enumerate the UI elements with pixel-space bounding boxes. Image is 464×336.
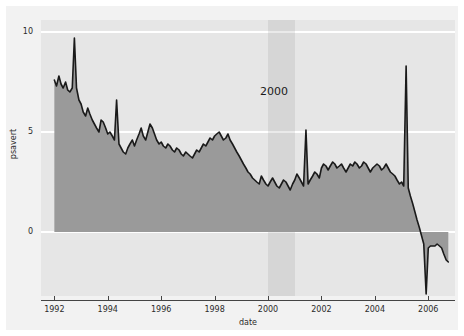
plot-panel: 2000	[41, 20, 455, 296]
x-tick-label-1996: 1996	[141, 306, 181, 314]
x-tick-label-2000: 2000	[248, 306, 288, 314]
area-fill-path	[54, 38, 448, 294]
x-tick-mark-1994	[108, 296, 109, 301]
x-tick-label-2004: 2004	[355, 306, 395, 314]
y-axis-title: psavert	[10, 114, 18, 174]
x-tick-label-1998: 1998	[195, 306, 235, 314]
x-tick-label-2006: 2006	[408, 306, 448, 314]
x-tick-label-1992: 1992	[34, 306, 74, 314]
x-tick-mark-2000	[268, 296, 269, 301]
x-tick-mark-2006	[428, 296, 429, 301]
y-tick-label-10: 10	[23, 28, 33, 36]
y-tick-label-0: 0	[28, 228, 33, 236]
x-tick-mark-1998	[215, 296, 216, 301]
x-axis-title: date	[41, 319, 455, 327]
x-tick-label-1994: 1994	[88, 306, 128, 314]
x-tick-mark-2004	[375, 296, 376, 301]
x-tick-mark-1992	[54, 296, 55, 301]
annotation-2000: 2000	[260, 86, 288, 97]
x-tick-mark-1996	[161, 296, 162, 301]
y-tick-label-5: 5	[28, 128, 33, 136]
chart-figure: 2000 0510 psavert 1992199419961998200020…	[0, 0, 464, 336]
x-tick-label-2002: 2002	[301, 306, 341, 314]
x-axis-line	[41, 300, 455, 301]
x-tick-mark-2002	[321, 296, 322, 301]
series-area-psavert	[41, 20, 455, 296]
